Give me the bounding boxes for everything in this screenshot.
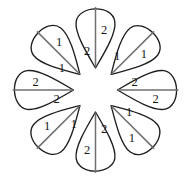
petal-bottom-right-digit: 1 [129,131,135,145]
petal-top-left-digit: 1 [56,35,62,49]
petal-top-left-digit: 1 [59,61,65,75]
petal-bottom-digit: 2 [84,143,90,157]
petal-top-digit: 2 [84,44,90,58]
petal-right-digit: 2 [131,75,137,89]
petal-bottom-left-digit: 1 [71,117,77,131]
petal-top-right-digit: 1 [141,47,147,61]
petal-layer: 2211221122112211 [13,7,179,173]
petal-left-digit: 2 [32,75,38,89]
petal-left-digit: 2 [53,92,59,106]
petal-right-digit: 2 [152,92,158,106]
petal-top-right-digit: 1 [114,49,120,63]
petal-bottom-right-digit: 1 [126,105,132,119]
petal-top: 22 [76,7,115,68]
petal-flower-diagram: 2211221122112211 [0,0,191,180]
petal-left: 22 [13,71,74,110]
petal-bottom-digit: 2 [101,122,107,136]
petal-bottom: 22 [76,112,115,173]
petal-top-digit: 2 [101,23,107,37]
petal-bottom-left-digit: 1 [44,119,50,133]
petal-fraction-figure: 2211221122112211 [0,0,191,180]
